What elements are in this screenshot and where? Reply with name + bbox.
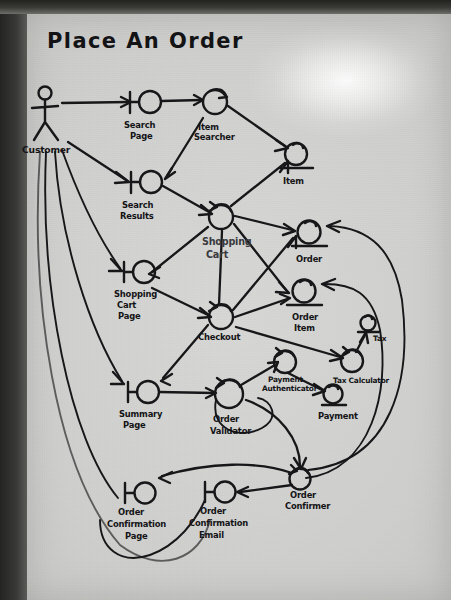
control-tax-calculator[interactable]: Tax Calculator bbox=[333, 347, 390, 385]
node-label-line: Item bbox=[294, 323, 315, 333]
node-label-line: Page bbox=[118, 311, 141, 321]
boundary-order-confirmation-page[interactable]: Order Confirmation Page bbox=[107, 483, 166, 542]
boundary-bar-icon bbox=[205, 482, 214, 502]
conn-search-results-shopping-cart bbox=[163, 186, 209, 212]
conn-checkout-order-item bbox=[235, 299, 287, 317]
boundary-bar-icon bbox=[125, 483, 134, 503]
entity-circle-icon bbox=[324, 385, 343, 404]
entity-payment[interactable]: Payment bbox=[318, 385, 358, 422]
node-label-line: Payment bbox=[318, 411, 358, 421]
entity-cap-icon bbox=[365, 316, 372, 319]
node-label-line: Cart bbox=[117, 300, 136, 310]
arrowhead-icon bbox=[360, 332, 368, 343]
conn-order-confirmer-order-confirmation-page bbox=[162, 465, 292, 476]
entity-cap-icon bbox=[305, 221, 316, 226]
control-order-validator[interactable]: Order Validator bbox=[210, 378, 252, 436]
node-label-line: Confirmer bbox=[285, 501, 331, 511]
node-label-line: Confirmation bbox=[107, 519, 166, 529]
boundary-bar-icon bbox=[128, 382, 137, 402]
entity-order-item[interactable]: Order Item bbox=[287, 280, 322, 334]
node-label-line: Order bbox=[290, 490, 317, 500]
arrowhead-icon bbox=[165, 168, 175, 179]
actor-label: Customer bbox=[22, 144, 71, 155]
node-label-line: Order bbox=[118, 507, 145, 517]
boundary-search-page[interactable]: Search Page bbox=[124, 91, 161, 141]
entity-circle-icon bbox=[298, 221, 321, 244]
node-label-line: Item bbox=[283, 176, 304, 186]
conn-shopping-cart-shopping-cart-page bbox=[152, 227, 208, 272]
node-label-line: Search bbox=[124, 120, 155, 130]
node-label-line: Confirmation bbox=[189, 518, 248, 528]
node-label-line: Results bbox=[120, 211, 154, 221]
node-label-line: Payment bbox=[268, 375, 304, 384]
diagram-ink-layer: Place An Order bbox=[0, 0, 451, 600]
conn-search-page-item-searcher bbox=[162, 100, 201, 101]
node-label-line: Order bbox=[200, 506, 227, 516]
boundary-circle-icon bbox=[140, 171, 162, 193]
node-label-line: Authenticator bbox=[262, 384, 318, 393]
boundary-circle-icon bbox=[137, 381, 159, 403]
node-label-line: Email bbox=[199, 530, 224, 540]
node-label-line: Searcher bbox=[194, 132, 236, 142]
node-label-line: Cart bbox=[206, 249, 229, 260]
boundary-bar-icon bbox=[124, 262, 133, 282]
arrowhead-icon bbox=[159, 472, 172, 483]
entity-circle-icon bbox=[361, 316, 376, 331]
boundary-circle-icon bbox=[139, 91, 161, 113]
control-shopping-cart[interactable]: Shopping Cart bbox=[202, 202, 252, 260]
control-item-searcher[interactable]: Item Searcher bbox=[194, 89, 236, 142]
control-order-confirmer[interactable]: Order Confirmer bbox=[285, 465, 331, 511]
stick-figure-actor-icon bbox=[39, 87, 52, 100]
entity-order[interactable]: Order bbox=[292, 221, 327, 265]
node-label-line: Order bbox=[213, 414, 240, 424]
node-label-line: Summary bbox=[119, 409, 163, 419]
boundary-circle-icon bbox=[215, 482, 236, 503]
boundary-circle-icon bbox=[135, 483, 156, 504]
screenshot-canvas: Place An Order bbox=[0, 0, 451, 600]
node-label-line: Page bbox=[130, 131, 153, 141]
conn-customer-order-confirmation-page bbox=[45, 152, 118, 498]
conn-customer-search-page bbox=[62, 102, 129, 103]
boundary-bar-icon bbox=[131, 172, 140, 193]
arrowhead-icon bbox=[209, 202, 217, 211]
arrowhead-icon bbox=[209, 302, 217, 311]
node-label-line: Page bbox=[125, 531, 148, 541]
boundary-summary-page[interactable]: Summary Page bbox=[119, 381, 163, 430]
entity-cap-icon bbox=[329, 386, 338, 389]
node-label-line: Checkout bbox=[198, 332, 240, 342]
boundary-bar-icon bbox=[130, 92, 139, 113]
node-label-line: Page bbox=[123, 420, 146, 430]
conn-order-validator-order-confirmer bbox=[246, 400, 300, 466]
actor-customer[interactable]: Customer bbox=[22, 87, 71, 156]
node-label-line: Shopping bbox=[202, 236, 252, 247]
conn-customer-summary-page bbox=[55, 152, 122, 381]
node-label-line: Tax bbox=[373, 334, 387, 343]
conn-shopping-cart-item bbox=[231, 163, 285, 206]
node-label-line: Validator bbox=[210, 426, 252, 436]
node-label-line: Item bbox=[198, 122, 219, 132]
conn-summary-page-order-validator bbox=[159, 392, 214, 393]
node-label-line: Search bbox=[122, 200, 153, 210]
control-payment-authenticator[interactable]: Payment Authenticator bbox=[262, 348, 318, 393]
arrowhead-icon bbox=[115, 172, 129, 183]
node-label-line: Tax Calculator bbox=[333, 376, 390, 385]
arrowhead-icon bbox=[276, 282, 289, 293]
stick-figure-body-icon bbox=[32, 100, 58, 140]
entity-cap-icon bbox=[300, 280, 311, 285]
node-label-line: Order bbox=[292, 312, 319, 322]
entity-circle-icon bbox=[293, 280, 316, 303]
entity-cap-icon bbox=[293, 143, 303, 148]
node-label-line: Order bbox=[296, 254, 323, 264]
conn-shopping-cart-page-checkout bbox=[152, 288, 208, 315]
node-label-line: Shopping bbox=[114, 289, 157, 299]
arrowhead-icon bbox=[289, 465, 297, 474]
conn-order-confirmer-order bbox=[308, 226, 404, 470]
page-title: Place An Order bbox=[47, 29, 244, 53]
